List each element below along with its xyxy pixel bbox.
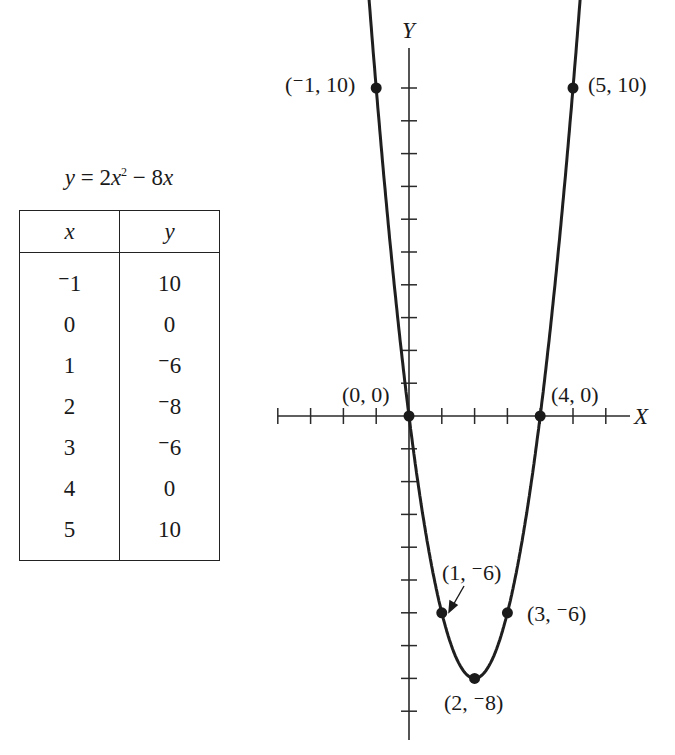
data-point bbox=[568, 83, 579, 94]
point-label-5-10: (5, 10) bbox=[588, 72, 647, 97]
data-point bbox=[371, 83, 382, 94]
data-point bbox=[436, 607, 447, 618]
point-label-4-0: (4, 0) bbox=[551, 382, 599, 407]
point-label-3-m6: (3, ⁻6) bbox=[527, 601, 586, 626]
y-axis-label: Y bbox=[402, 18, 417, 43]
data-point bbox=[535, 411, 546, 422]
parabola-graph: Y X (⁻1, 10) (5, 10) (0, 0) (4, 0) (1, ⁻… bbox=[0, 0, 675, 755]
point-label-m1-10: (⁻1, 10) bbox=[285, 72, 355, 97]
point-label-0-0: (0, 0) bbox=[342, 382, 390, 407]
data-point bbox=[469, 673, 480, 684]
point-label-1-m6: (1, ⁻6) bbox=[442, 560, 501, 585]
x-axis-label: X bbox=[633, 404, 649, 429]
point-label-2-m8: (2, ⁻8) bbox=[444, 690, 503, 715]
data-point bbox=[404, 411, 415, 422]
data-point bbox=[502, 607, 513, 618]
arrow-icon bbox=[449, 586, 464, 612]
